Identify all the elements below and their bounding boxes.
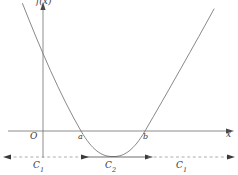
region-label-c1-left-sub: 1 xyxy=(40,166,44,174)
y-axis-label: f(x) xyxy=(36,0,51,6)
region-label-c2-name: C xyxy=(105,160,112,170)
region-arrow-middle-left xyxy=(81,154,89,159)
region-label-c1-right-name: C xyxy=(176,160,183,170)
x-axis-label: x xyxy=(226,130,231,139)
region-label-c1-right: C1 xyxy=(176,161,187,172)
origin-label: O xyxy=(30,132,37,141)
root-b-label: b xyxy=(143,133,148,141)
region-label-c2: C2 xyxy=(105,161,116,172)
root-a-label: a xyxy=(78,133,83,141)
math-figure-parabola: f(x) x O a b C1 C2 C1 xyxy=(0,0,238,175)
region-label-c1-right-sub: 1 xyxy=(183,166,187,174)
plot-canvas xyxy=(0,0,238,175)
parabola-curve xyxy=(23,4,215,157)
region-label-c1-left-name: C xyxy=(33,160,40,170)
region-arrow-right xyxy=(227,154,235,159)
region-label-c2-sub: 2 xyxy=(112,166,116,174)
region-arrow-left xyxy=(3,154,11,159)
region-label-c1-left: C1 xyxy=(33,161,44,172)
